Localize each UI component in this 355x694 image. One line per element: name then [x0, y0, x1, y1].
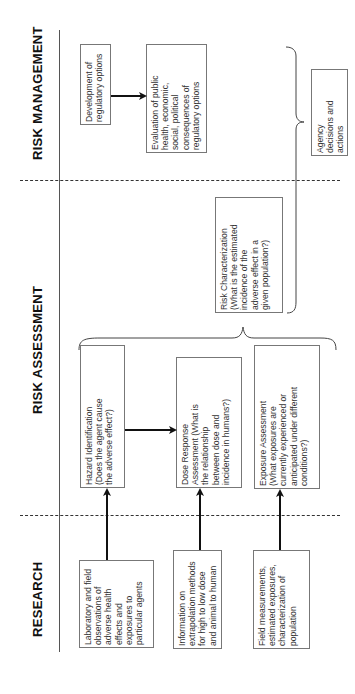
brace-to-agency — [286, 47, 304, 313]
brace-assessment-group — [79, 327, 336, 350]
connectors-overlay — [0, 0, 355, 694]
